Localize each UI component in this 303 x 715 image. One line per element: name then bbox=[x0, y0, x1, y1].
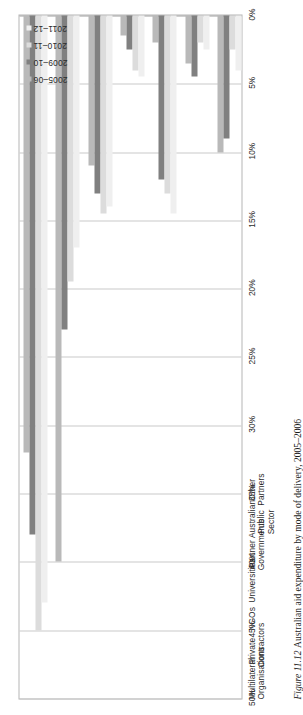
bar bbox=[203, 15, 209, 49]
bar bbox=[132, 15, 138, 70]
bar bbox=[41, 15, 47, 602]
percent-tick-label: 20% bbox=[246, 278, 256, 296]
bar bbox=[191, 15, 197, 76]
percent-tick-label: 0% bbox=[246, 5, 256, 23]
percent-tick-label: 25% bbox=[246, 347, 256, 365]
bar bbox=[106, 15, 112, 206]
percent-tick-label: 30% bbox=[246, 415, 256, 433]
category-axis: Multilateral OrganisationsPrivate Contra… bbox=[246, 14, 289, 699]
legend-label: 2011–12 bbox=[33, 23, 66, 33]
bar bbox=[73, 15, 79, 247]
bar bbox=[126, 15, 132, 49]
bar bbox=[29, 15, 35, 534]
figure-container: 2005–062009–102010–112011–12 Multilatera… bbox=[0, 0, 303, 715]
bar bbox=[100, 15, 106, 213]
bar bbox=[170, 15, 176, 213]
legend-swatch-icon bbox=[26, 60, 31, 65]
bar bbox=[158, 15, 164, 179]
category-label: Private Contractors bbox=[247, 634, 266, 666]
bar bbox=[217, 15, 223, 152]
bar-group bbox=[116, 15, 148, 698]
bar-group bbox=[84, 15, 116, 698]
percent-tick-label: 5% bbox=[246, 73, 256, 91]
percent-tick-label: 40% bbox=[246, 551, 256, 569]
bar bbox=[88, 15, 94, 165]
category-label: Universities bbox=[247, 570, 257, 602]
figure-number: Figure 11.12 bbox=[291, 650, 302, 699]
bar bbox=[197, 15, 203, 42]
bar bbox=[229, 15, 235, 49]
percent-tick-label: 50% bbox=[246, 688, 256, 706]
legend-item: 2011–12 bbox=[26, 23, 66, 33]
bar bbox=[185, 15, 191, 63]
bar-group bbox=[148, 15, 180, 698]
figure-caption: Figure 11.12 Australian aid expenditure … bbox=[291, 14, 303, 699]
legend-item: 2010–11 bbox=[26, 40, 66, 50]
bar bbox=[67, 15, 73, 281]
bar bbox=[35, 15, 41, 630]
legend-swatch-icon bbox=[26, 77, 31, 82]
bar bbox=[152, 15, 158, 42]
bar bbox=[235, 15, 241, 70]
legend-item: 2009–10 bbox=[26, 57, 67, 67]
bar bbox=[55, 15, 61, 561]
bar bbox=[223, 15, 229, 138]
bar-group bbox=[51, 15, 83, 698]
chart-plot-frame: 2005–062009–102010–112011–12 bbox=[18, 14, 242, 699]
bar bbox=[138, 15, 144, 76]
bar bbox=[164, 15, 170, 193]
percent-tick-label: 10% bbox=[246, 142, 256, 160]
legend-label: 2009–10 bbox=[33, 57, 67, 67]
bar bbox=[94, 15, 100, 193]
bar-group bbox=[19, 15, 51, 698]
legend-item: 2005–06 bbox=[26, 74, 67, 84]
chart-plot-area bbox=[19, 15, 241, 698]
figure-caption-text: Australian aid expenditure by mode of de… bbox=[291, 418, 302, 647]
bar-group bbox=[180, 15, 212, 698]
bar bbox=[120, 15, 126, 35]
percent-tick-label: 15% bbox=[246, 210, 256, 228]
legend-swatch-icon bbox=[26, 43, 31, 48]
legend-label: 2010–11 bbox=[33, 40, 66, 50]
rotated-page-wrapper: 2005–062009–102010–112011–12 Multilatera… bbox=[0, 0, 303, 715]
percent-tick-label: 35% bbox=[246, 483, 256, 501]
category-label: Australian Public Sector bbox=[247, 505, 276, 537]
percent-tick-label: 45% bbox=[246, 620, 256, 638]
chart-legend: 2005–062009–102010–112011–12 bbox=[26, 23, 67, 84]
legend-swatch-icon bbox=[26, 26, 31, 31]
legend-label: 2005–06 bbox=[33, 74, 67, 84]
bar-group bbox=[213, 15, 245, 698]
